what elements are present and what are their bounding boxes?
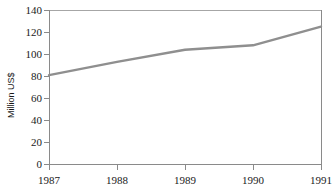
plot-area [0,0,335,191]
x-axis-ticks [50,165,322,170]
data-line-series-1 [49,27,321,76]
chart-container: Million US$ 140 120 100 80 60 40 20 0 19… [0,0,335,191]
caption-fragment [16,188,136,191]
y-axis-ticks [44,11,49,165]
plot-frame [49,10,322,165]
